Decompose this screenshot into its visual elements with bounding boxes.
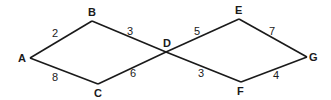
graph-canvas: 23865734 ABCDEFG [0,0,331,100]
node-d: D [163,37,171,49]
node-g: G [309,51,318,63]
edge-d-e [166,19,239,52]
edge-weight-f-g: 4 [273,69,279,81]
edge-a-b [30,21,92,58]
edge-weight-c-d: 6 [130,67,136,79]
edge-weights-layer: 23865734 [52,25,279,83]
node-c: C [94,87,102,99]
node-e: E [235,4,242,16]
edge-weight-b-d: 3 [127,25,133,37]
edge-weight-e-g: 7 [269,25,275,37]
node-b: B [88,6,96,18]
edge-weight-d-f: 3 [198,67,204,79]
edge-a-c [30,58,98,84]
edge-weight-d-e: 5 [194,25,200,37]
weighted-graph-diagram: 23865734 ABCDEFG [0,0,331,100]
edge-weight-a-b: 2 [52,27,58,39]
edge-weight-a-c: 8 [52,71,58,83]
node-a: A [18,52,26,64]
edges-layer [30,19,307,84]
node-f: F [237,85,244,97]
